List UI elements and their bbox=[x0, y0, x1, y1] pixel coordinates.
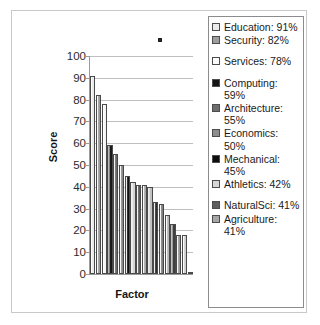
legend-item-label: Services: 78% bbox=[224, 55, 291, 67]
bar bbox=[107, 145, 112, 274]
bar bbox=[147, 187, 152, 274]
legend-swatch-icon bbox=[212, 129, 220, 137]
y-axis-tick-label: 20 bbox=[50, 225, 86, 235]
bar-series bbox=[90, 56, 193, 274]
legend-item-label: Mechanical: 45% bbox=[224, 153, 280, 177]
legend-item[interactable]: NaturalSci: 41% bbox=[212, 199, 301, 211]
bar bbox=[90, 76, 95, 274]
y-axis-tick-label: 30 bbox=[50, 204, 86, 214]
y-axis-tickmark bbox=[85, 121, 89, 122]
legend-item-label: NaturalSci: 41% bbox=[224, 199, 299, 211]
y-axis-tick-label: 60 bbox=[50, 138, 86, 148]
legend-swatch-icon bbox=[212, 36, 220, 44]
plot-area bbox=[89, 56, 193, 274]
legend-item-label: Economics: 50% bbox=[224, 127, 278, 151]
legend-swatch-icon bbox=[212, 79, 220, 87]
y-axis-tickmark bbox=[85, 230, 89, 231]
bar bbox=[159, 204, 164, 274]
y-axis-tickmark bbox=[85, 209, 89, 210]
legend-item[interactable]: Economics: 50% bbox=[212, 127, 301, 151]
legend-item[interactable]: Services: 78% bbox=[212, 55, 301, 67]
y-axis-tick-labels: 1009080706050403020100 bbox=[50, 56, 86, 274]
y-axis-tick-label: 50 bbox=[50, 160, 86, 170]
y-axis-tick-label: 70 bbox=[50, 116, 86, 126]
chart-frame: Score 1009080706050403020100 Factor Educ… bbox=[11, 10, 307, 313]
stray-marker-icon bbox=[158, 38, 162, 42]
bar bbox=[176, 235, 181, 274]
bar bbox=[165, 215, 170, 274]
legend-item-label: Agriculture: 41% bbox=[224, 213, 277, 237]
y-axis-tick-label: 100 bbox=[50, 51, 86, 61]
y-axis-tickmark bbox=[85, 165, 89, 166]
chart-figure: Score 1009080706050403020100 Factor Educ… bbox=[0, 0, 320, 325]
y-axis-tickmark bbox=[85, 187, 89, 188]
legend-item[interactable]: Athletics: 42% bbox=[212, 178, 301, 190]
legend-swatch-icon bbox=[212, 23, 220, 31]
legend-item-label: Security: 82% bbox=[224, 34, 289, 46]
gridline bbox=[89, 274, 193, 275]
legend-item[interactable]: Agriculture: 41% bbox=[212, 213, 301, 237]
bar bbox=[102, 104, 107, 274]
bar bbox=[113, 154, 118, 274]
bar bbox=[130, 182, 135, 274]
legend-swatch-icon bbox=[212, 104, 220, 112]
y-axis-tickmark bbox=[85, 274, 89, 275]
bar bbox=[188, 272, 193, 274]
y-axis-tickmark bbox=[85, 78, 89, 79]
y-axis-tickmark bbox=[85, 56, 89, 57]
legend-swatch-icon bbox=[212, 155, 220, 163]
bar bbox=[136, 185, 141, 274]
bar bbox=[182, 235, 187, 274]
y-axis-tick-label: 80 bbox=[50, 95, 86, 105]
bar bbox=[170, 224, 175, 274]
bar bbox=[153, 202, 158, 274]
bar bbox=[119, 165, 124, 274]
legend-item[interactable]: Architecture: 55% bbox=[212, 102, 301, 126]
chart-legend: Education: 91%Security: 82%Services: 78%… bbox=[208, 16, 304, 308]
legend-item-label: Athletics: 42% bbox=[224, 178, 291, 190]
bar bbox=[96, 95, 101, 274]
y-axis-tick-label: 0 bbox=[50, 269, 86, 279]
legend-swatch-icon bbox=[212, 215, 220, 223]
legend-swatch-icon bbox=[212, 180, 220, 188]
y-axis-tickmark bbox=[85, 143, 89, 144]
legend-item[interactable]: Computing: 59% bbox=[212, 77, 301, 101]
y-axis-tick-label: 40 bbox=[50, 182, 86, 192]
legend-swatch-icon bbox=[212, 201, 220, 209]
legend-item-label: Education: 91% bbox=[224, 21, 298, 33]
x-axis-title: Factor bbox=[72, 288, 192, 300]
y-axis-tickmark bbox=[85, 100, 89, 101]
bar bbox=[142, 185, 147, 274]
legend-swatch-icon bbox=[212, 57, 220, 65]
y-axis-tick-label: 90 bbox=[50, 73, 86, 83]
bar bbox=[125, 176, 130, 274]
y-axis-tickmark bbox=[85, 252, 89, 253]
plot-region: Score 1009080706050403020100 Factor bbox=[12, 11, 208, 314]
legend-item-label: Computing: 59% bbox=[224, 77, 278, 101]
legend-item-label: Architecture: 55% bbox=[224, 102, 283, 126]
legend-item[interactable]: Education: 91% bbox=[212, 21, 301, 33]
y-axis-tick-label: 10 bbox=[50, 247, 86, 257]
legend-item[interactable]: Mechanical: 45% bbox=[212, 153, 301, 177]
legend-item[interactable]: Security: 82% bbox=[212, 34, 301, 46]
